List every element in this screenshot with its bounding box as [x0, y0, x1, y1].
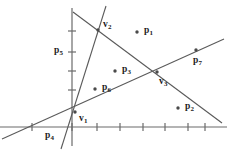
diagram-canvas: [0, 0, 227, 152]
site-dots-group: [73, 28, 197, 113]
vertex-v2-dot: [96, 28, 99, 31]
diagram-figure: p1p2p3p4p5p6p7v1v2v3: [0, 0, 227, 152]
ascending-line: [2, 39, 224, 139]
point-p6-dot: [93, 87, 96, 90]
vertex-v1-dot: [73, 110, 76, 113]
descending-line: [73, 12, 222, 123]
point-p7-dot: [194, 48, 197, 51]
point-p3-dot: [113, 69, 116, 72]
point-p2-dot: [176, 106, 179, 109]
axis-group: [0, 8, 227, 146]
point-p1-dot: [135, 30, 138, 33]
vertex-v3-dot: [155, 70, 158, 73]
